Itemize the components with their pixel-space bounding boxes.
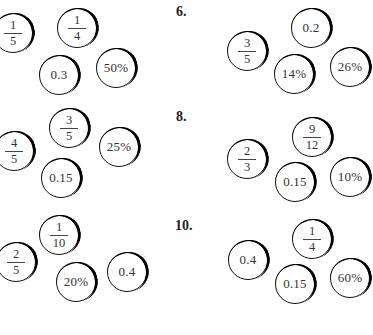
fraction: 23 [238, 145, 256, 174]
fraction: 35 [238, 37, 256, 66]
fraction: 25 [7, 248, 25, 277]
number-coin: 50% [96, 48, 136, 88]
fraction: 35 [60, 114, 78, 143]
fraction: 14 [68, 14, 86, 43]
number-coin: 45 [0, 131, 34, 171]
coin-value: 0.4 [240, 252, 257, 268]
coin-value: 0.15 [283, 276, 307, 292]
number-coin: 0.4 [228, 240, 268, 280]
numerator: 1 [10, 19, 16, 32]
fraction: 14 [303, 225, 321, 254]
number-coin: 25% [99, 127, 139, 167]
number-coin: 0.15 [275, 162, 315, 202]
number-coin: 0.4 [107, 252, 147, 292]
number-coin: 14 [292, 219, 332, 259]
fraction: 15 [4, 19, 22, 48]
number-coin: 35 [227, 31, 267, 71]
number-coin: 15 [0, 13, 33, 53]
coin-value: 26% [338, 59, 362, 75]
coin-value: 14% [282, 66, 306, 82]
coin-value: 0.4 [119, 264, 136, 280]
number-coin: 23 [227, 139, 267, 179]
number-coin: 0.3 [39, 55, 79, 95]
coin-value: 0.15 [283, 174, 307, 190]
numerator: 4 [11, 137, 17, 150]
number-coin: 10% [330, 157, 370, 197]
numerator: 2 [244, 145, 250, 158]
number-coin: 14% [274, 54, 314, 94]
number-coin: 35 [49, 108, 89, 148]
number-coin: 20% [56, 262, 96, 302]
coin-value: 50% [104, 60, 128, 76]
denominator: 5 [13, 264, 19, 277]
fraction: 45 [5, 137, 23, 166]
coin-value: 0.15 [49, 170, 73, 186]
coin-value: 20% [64, 274, 88, 290]
numerator: 1 [56, 221, 62, 234]
numerator: 9 [309, 123, 315, 136]
denominator: 5 [66, 130, 72, 143]
fraction: 912 [303, 123, 321, 152]
numerator: 1 [309, 225, 315, 238]
coin-value: 0.2 [303, 20, 320, 36]
numerator: 3 [66, 114, 72, 127]
problem-number-label: 6. [176, 4, 187, 20]
fraction: 110 [50, 221, 68, 250]
coin-value: 0.3 [51, 67, 68, 83]
denominator: 12 [306, 139, 319, 152]
denominator: 3 [244, 161, 250, 174]
number-coin: 912 [292, 117, 332, 157]
denominator: 5 [10, 35, 16, 48]
denominator: 4 [74, 30, 80, 43]
number-coin: 0.2 [291, 8, 331, 48]
coin-value: 25% [107, 139, 131, 155]
numerator: 2 [13, 248, 19, 261]
number-coin: 60% [330, 258, 370, 298]
number-coin: 25 [0, 242, 36, 282]
number-coin: 14 [57, 8, 97, 48]
problem-number-label: 10. [175, 218, 193, 234]
denominator: 5 [11, 153, 17, 166]
numerator: 3 [244, 37, 250, 50]
number-coin: 26% [330, 47, 370, 87]
denominator: 4 [309, 241, 315, 254]
coin-value: 60% [338, 270, 362, 286]
number-coin: 0.15 [41, 158, 81, 198]
coin-value: 10% [338, 169, 362, 185]
denominator: 5 [244, 53, 250, 66]
numerator: 1 [74, 14, 80, 27]
number-coin: 0.15 [275, 264, 315, 304]
number-coin: 110 [39, 215, 79, 255]
problem-number-label: 8. [176, 109, 187, 125]
denominator: 10 [53, 237, 66, 250]
